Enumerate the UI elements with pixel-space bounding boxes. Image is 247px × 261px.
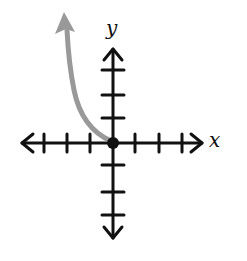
origin-closed-dot bbox=[107, 137, 119, 149]
x-axis-label: x bbox=[209, 130, 220, 150]
y-axis-label: y bbox=[106, 18, 117, 38]
function-curve bbox=[55, 12, 111, 141]
